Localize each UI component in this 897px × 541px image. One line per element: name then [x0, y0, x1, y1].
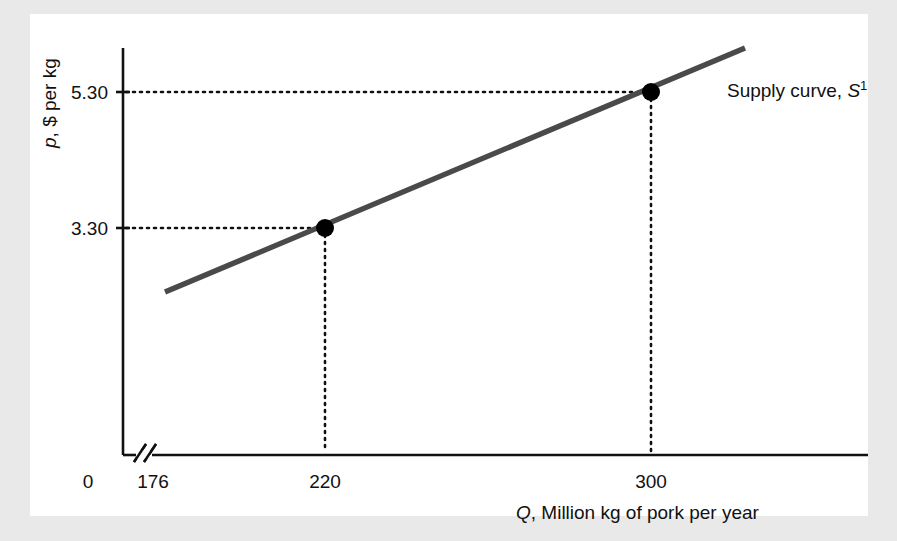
x-origin-label: 0 — [83, 471, 94, 492]
data-point-220-330 — [316, 219, 334, 237]
y-axis-title-rest: , $ per kg — [39, 58, 60, 137]
svg-text:p, $ per kg: p, $ per kg — [39, 58, 60, 149]
y-axis-symbol: p — [39, 137, 60, 149]
supply-curve-annotation-symbol: S — [847, 80, 860, 101]
supply-curve-annotation-superscript: 1 — [860, 78, 867, 93]
supply-curve-figure: 5.30 3.30 p, $ per kg 0 176 220 300 Q, M… — [0, 0, 897, 541]
x-axis-title-rest: , Million kg of pork per year — [531, 502, 760, 523]
y-axis-title: p, $ per kg — [39, 58, 60, 149]
x-tick-label-300: 300 — [635, 471, 667, 492]
x-axis-symbol: Q — [516, 502, 531, 523]
x-tick-label-176: 176 — [137, 471, 169, 492]
y-tick-label-530: 5.30 — [71, 82, 108, 103]
x-axis-break-icon — [134, 444, 156, 462]
data-point-300-530 — [642, 83, 660, 101]
supply-curve-annotation-text: Supply curve, — [727, 80, 847, 101]
x-tick-label-220: 220 — [309, 471, 341, 492]
y-tick-label-330: 3.30 — [71, 218, 108, 239]
chart-canvas: 5.30 3.30 p, $ per kg 0 176 220 300 Q, M… — [0, 0, 897, 541]
x-axis-title: Q, Million kg of pork per year — [516, 502, 760, 523]
supply-curve-annotation: Supply curve, S1 — [727, 78, 867, 101]
supply-curve-line — [165, 48, 745, 292]
